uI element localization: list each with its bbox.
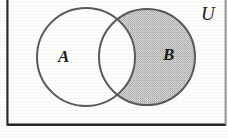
venn-diagram-canvas xyxy=(0,0,228,138)
set-label-b: B xyxy=(163,46,174,63)
set-label-a: A xyxy=(58,48,69,65)
universe-label: U xyxy=(201,4,215,23)
venn-diagram-figure: A B U xyxy=(0,0,228,138)
